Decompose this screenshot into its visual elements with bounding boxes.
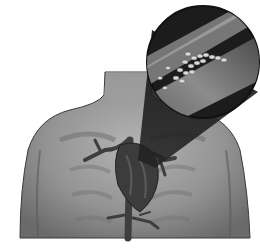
torso-illustration xyxy=(0,0,260,250)
